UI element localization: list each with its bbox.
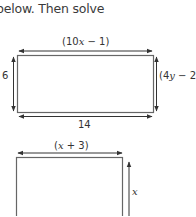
label-left-1: 6 (2, 70, 8, 81)
label-bottom-1: 14 (78, 119, 91, 130)
rectangle-2 (17, 158, 123, 217)
rectangle-1 (18, 56, 154, 113)
diagram-canvas (0, 0, 196, 216)
label-top-2: (x + 3) (54, 140, 89, 151)
label-top-1: (10x − 1) (62, 36, 109, 47)
label-right-2: x (132, 186, 138, 197)
label-right-1: (4y − 2) (159, 70, 196, 81)
